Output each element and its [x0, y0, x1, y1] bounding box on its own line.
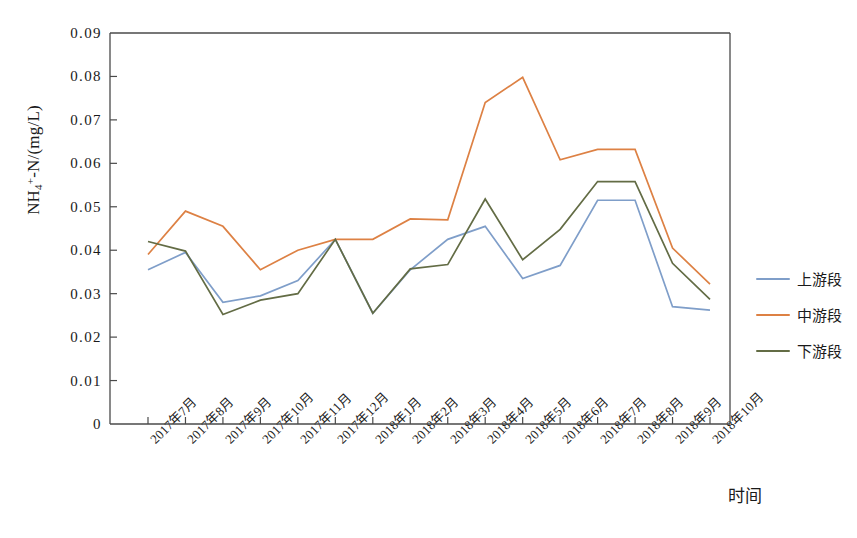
legend-swatch-icon	[756, 314, 790, 316]
series-line-中游段	[148, 77, 710, 284]
data-series-group	[148, 77, 710, 314]
legend-swatch-icon	[756, 278, 790, 280]
legend-label: 中游段	[797, 304, 842, 325]
axis-ticks	[110, 76, 710, 424]
axis-frame	[110, 33, 730, 424]
legend-label: 下游段	[797, 340, 842, 361]
series-line-上游段	[148, 200, 710, 313]
legend-item-上游段[interactable]: 上游段	[756, 268, 842, 289]
legend-item-下游段[interactable]: 下游段	[756, 340, 842, 361]
chart-legend: 上游段中游段下游段	[756, 268, 842, 361]
legend-label: 上游段	[797, 268, 842, 289]
legend-swatch-icon	[756, 350, 790, 352]
chart-figure: NH4+-N/(mg/L) 0.090.080.070.060.050.040.…	[0, 0, 857, 538]
legend-item-中游段[interactable]: 中游段	[756, 304, 842, 325]
series-line-下游段	[148, 182, 710, 315]
plot-area	[0, 0, 857, 538]
